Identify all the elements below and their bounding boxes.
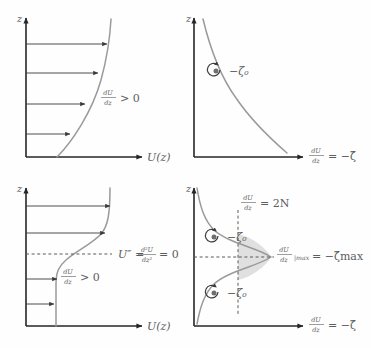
vortex-label-lower: −ζ₀ [227,287,247,300]
shear-numerator: dU [103,89,113,97]
shear-axis-label: dU dz = −ζ̂ [309,147,356,165]
panel-top-right: −ζ₀ z dU dz = −ζ̂ [186,0,371,174]
twon-relation: = 2N [260,197,290,210]
shear-layer-profile-curve [56,188,110,326]
max-shear-annotation: dU dz |max = −ζ̂max [277,246,364,264]
shear-axis-label: dU dz = −ζ̂ [309,316,356,334]
twon-denominator: dz [244,204,252,212]
inflection-numerator: d²U [141,246,154,254]
shear-numerator: dU [311,316,321,324]
max-numerator: dU [279,246,289,254]
shear-numerator: dU [311,147,321,155]
u-axis-label: U(z) [147,320,171,333]
inflection-denominator: dz² [142,256,152,264]
z-axis-label: z [16,183,23,194]
panel-bottom-left: z U(z) U″ = d²U dz² = 0 dU dz > 0 [0,174,185,348]
vortex-label-upper: −ζ₀ [229,65,249,78]
panel-top-left: z U(z) dU dz > 0 [0,0,185,174]
inflection-annotation: U″ = d²U dz² = 0 [118,246,179,264]
inflection-relation: = 0 [159,248,179,261]
shear-relation: = −ζ̂ [328,150,356,163]
shear-relation: = −ζ̂ [328,319,356,332]
shear-positive-annotation: dU dz > 0 [61,268,100,286]
velocity-profile-curve [57,19,111,157]
shear-relation: > 0 [120,92,140,105]
shear-denominator: dz [104,99,112,107]
z-axis-label: z [186,183,192,194]
max-relation: = −ζ̂max [312,250,364,263]
z-axis-label: z [16,13,23,24]
panel-bottom-right: −ζ₀ −ζ₀ dU dz = 2N dU dz |max = −ζ̂max [186,174,371,348]
shear-denominator: dz [312,326,320,334]
figure-container: z U(z) dU dz > 0 −ζ₀ z [0,0,371,348]
shear-denominator: dz [64,278,72,286]
shear-denominator: dz [312,157,320,165]
shear-numerator: dU [63,268,73,276]
max-denominator: dz [280,256,288,264]
two-n-annotation: dU dz = 2N [241,194,290,212]
shear-decay-curve [203,19,287,153]
shear-relation: > 0 [80,271,100,284]
u-axis-label: U(z) [147,151,171,164]
twon-numerator: dU [243,194,253,202]
shear-positive-annotation: dU dz > 0 [101,89,140,107]
vortex-label-upper: −ζ₀ [227,231,247,244]
max-subscript: |max [294,254,310,262]
z-axis-label: z [186,13,192,24]
